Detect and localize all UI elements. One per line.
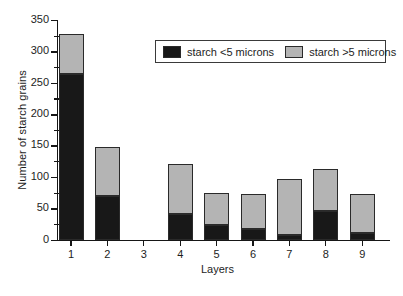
x-tick-label: 4: [165, 248, 195, 260]
x-tick: [70, 240, 71, 246]
x-tick-label: 2: [92, 248, 122, 260]
bar-segment-starch-small: [241, 229, 266, 240]
bar-segment-starch-large: [59, 34, 84, 74]
y-axis-label: Number of starch grains: [14, 10, 30, 250]
bar-stack: [204, 193, 229, 240]
x-tick: [362, 240, 363, 246]
y-tick-label: 150: [31, 138, 49, 150]
y-tick-major: [51, 51, 58, 52]
bar-segment-starch-large: [350, 194, 375, 232]
gray-square-icon: [285, 46, 303, 58]
legend-label: starch <5 microns: [187, 46, 274, 58]
x-axis-label: Layers: [45, 263, 390, 275]
bar-segment-starch-large: [204, 193, 229, 225]
bar-segment-starch-large: [277, 179, 302, 234]
x-tick: [325, 240, 326, 246]
x-tick-label: 1: [56, 248, 86, 260]
bar-stack: [168, 164, 193, 240]
bar-segment-starch-small: [204, 225, 229, 240]
legend-entry: starch >5 microns: [285, 46, 396, 58]
bar-stack: [59, 34, 84, 240]
bar-segment-starch-large: [313, 169, 338, 211]
x-tick: [107, 240, 108, 246]
x-tick-label: 8: [311, 248, 341, 260]
y-tick-major: [51, 114, 58, 115]
bar-segment-starch-large: [168, 164, 193, 214]
y-tick-major: [51, 240, 58, 241]
x-tick-label: 5: [202, 248, 232, 260]
y-tick-major: [51, 20, 58, 21]
x-tick: [143, 240, 144, 246]
bar-stack: [313, 169, 338, 239]
chart-figure: Number of starch grains Layers 050100150…: [0, 0, 403, 296]
y-tick-label: 300: [31, 44, 49, 56]
x-tick: [180, 240, 181, 246]
y-tick-major: [51, 83, 58, 84]
y-tick-major: [51, 177, 58, 178]
bar-segment-starch-small: [313, 211, 338, 239]
y-tick-label: 350: [31, 13, 49, 25]
y-tick-label: 200: [31, 107, 49, 119]
y-tick-label: 250: [31, 76, 49, 88]
x-tick: [252, 240, 253, 246]
legend-label: starch >5 microns: [309, 46, 396, 58]
bar-stack: [350, 194, 375, 239]
bar-segment-starch-small: [59, 74, 84, 240]
bar-segment-starch-small: [350, 233, 375, 240]
y-tick-major: [51, 145, 58, 146]
bar-segment-starch-small: [277, 235, 302, 240]
bar-stack: [277, 179, 302, 239]
bar-segment-starch-large: [241, 194, 266, 229]
bar-stack: [241, 194, 266, 240]
y-tick-major: [51, 208, 58, 209]
x-tick: [289, 240, 290, 246]
chart-legend: starch <5 micronsstarch >5 microns: [155, 40, 386, 63]
y-tick-label: 0: [43, 233, 49, 245]
bar-segment-starch-small: [168, 214, 193, 240]
bar-stack: [95, 147, 120, 239]
y-tick-label: 100: [31, 170, 49, 182]
x-tick-label: 3: [129, 248, 159, 260]
x-tick-label: 7: [274, 248, 304, 260]
x-tick-label: 6: [238, 248, 268, 260]
x-tick: [216, 240, 217, 246]
legend-entry: starch <5 microns: [163, 46, 274, 58]
y-tick-label: 50: [37, 201, 49, 213]
black-square-icon: [163, 46, 181, 58]
x-tick-label: 9: [347, 248, 377, 260]
bar-segment-starch-small: [95, 196, 120, 240]
bar-segment-starch-large: [95, 147, 120, 195]
